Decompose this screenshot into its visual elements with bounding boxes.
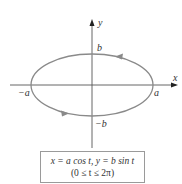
y-axis-label: y: [98, 18, 102, 28]
equation-line-1: x = a cos t, y = b sin t: [41, 155, 144, 167]
equation-box: x = a cos t, y = b sin t (0 ≤ t ≤ 2π): [40, 151, 145, 183]
label-neg-a: −a: [18, 88, 30, 98]
label-a: a: [154, 88, 159, 98]
y-axis-arrow-icon: [90, 19, 95, 26]
label-neg-b: −b: [95, 119, 107, 129]
x-axis-label: x: [173, 73, 177, 83]
direction-arrow-icon: [61, 111, 69, 117]
label-b: b: [97, 43, 102, 53]
equation-line-2: (0 ≤ t ≤ 2π): [41, 167, 144, 179]
x-axis-arrow-icon: [171, 83, 178, 88]
direction-arrow-icon: [115, 54, 123, 60]
